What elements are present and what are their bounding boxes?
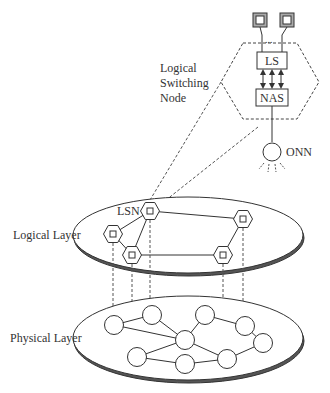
physical-layer-label: Physical Layer (10, 331, 82, 345)
lsn-label: LSN (117, 204, 140, 218)
physical-node-icon (176, 331, 195, 350)
ellipsis-label: ... (265, 34, 273, 45)
port-box-icon (253, 13, 267, 27)
physical-node-icon (128, 348, 147, 367)
physical-node-icon (196, 306, 215, 325)
port-link (260, 27, 262, 52)
logical-node-icon (234, 211, 253, 228)
logical-node-icon (214, 247, 233, 264)
port-link (282, 27, 287, 52)
logical-layer: LSN (73, 197, 304, 276)
logical-node-icon (123, 247, 142, 264)
logical-switching-node-label: Logical Switching Node (160, 61, 212, 105)
physical-node-icon (105, 316, 124, 335)
ls-label: LS (265, 54, 279, 68)
zoom-projection-line (156, 127, 258, 208)
onn-node-icon (259, 143, 285, 172)
physical-node-icon (143, 306, 162, 325)
logical-switching-node-detail: ... LS NAS ONN Logical Switching Node (160, 13, 319, 172)
physical-layer (73, 296, 304, 383)
logical-layer-label: Logical Layer (13, 228, 81, 242)
network-layer-diagram: ... LS NAS ONN Logical Switching Node (0, 0, 330, 393)
nas-label: NAS (260, 91, 284, 105)
physical-node-icon (176, 355, 195, 374)
physical-node-icon (218, 350, 237, 369)
port-box-icon (280, 13, 294, 27)
physical-node-icon (254, 334, 273, 353)
physical-node-icon (236, 317, 255, 336)
logical-node-icon (104, 226, 123, 243)
lsn-node-icon (141, 203, 160, 220)
onn-label: ONN (286, 145, 312, 159)
